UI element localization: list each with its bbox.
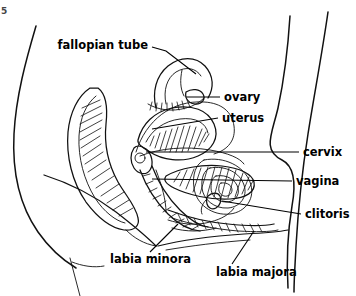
cervix-outline [131,146,152,173]
thigh-fold-outline [72,262,104,267]
label-clitoris: clitoris [305,207,350,221]
label-uterus: uterus [222,111,264,125]
label-vagina: vagina [296,174,339,188]
broad-ligament-outline [136,102,234,154]
bladder-inner-outline [79,96,125,223]
diagram-canvas: fallopian tube ovary uterus cervix vagin… [0,0,356,296]
thigh-crease-line [70,258,80,296]
leader-labia-majora [232,231,254,264]
label-cervix: cervix [303,145,343,159]
leader-clitoris [222,201,301,214]
corner-page-mark: 5 [1,6,7,16]
anatomy-diagram: fallopian tube ovary uterus cervix vagin… [0,0,356,296]
label-labia-minora: labia minora [110,252,191,266]
abdominal-wall-outline [14,26,76,268]
labels-group: fallopian tube ovary uterus cervix vagin… [58,38,350,279]
leader-uterus [152,118,218,129]
anal-canal-outline [168,210,274,226]
vagina-group [140,159,288,250]
vaginal-canal-hatching [143,174,198,230]
labia-majora-outline [158,230,288,246]
label-fallopian-tube: fallopian tube [58,38,149,52]
leader-vagina [152,179,292,181]
fallopian-tube-lumen [181,70,184,96]
cervical-os-marker [135,153,145,163]
leader-labia-minora [150,224,178,252]
label-labia-majora: labia majora [216,265,297,279]
bladder-group [68,88,156,246]
fallopian-tube-group [148,59,212,112]
label-ovary: ovary [224,90,261,104]
leader-fallopian-tube [152,47,196,74]
